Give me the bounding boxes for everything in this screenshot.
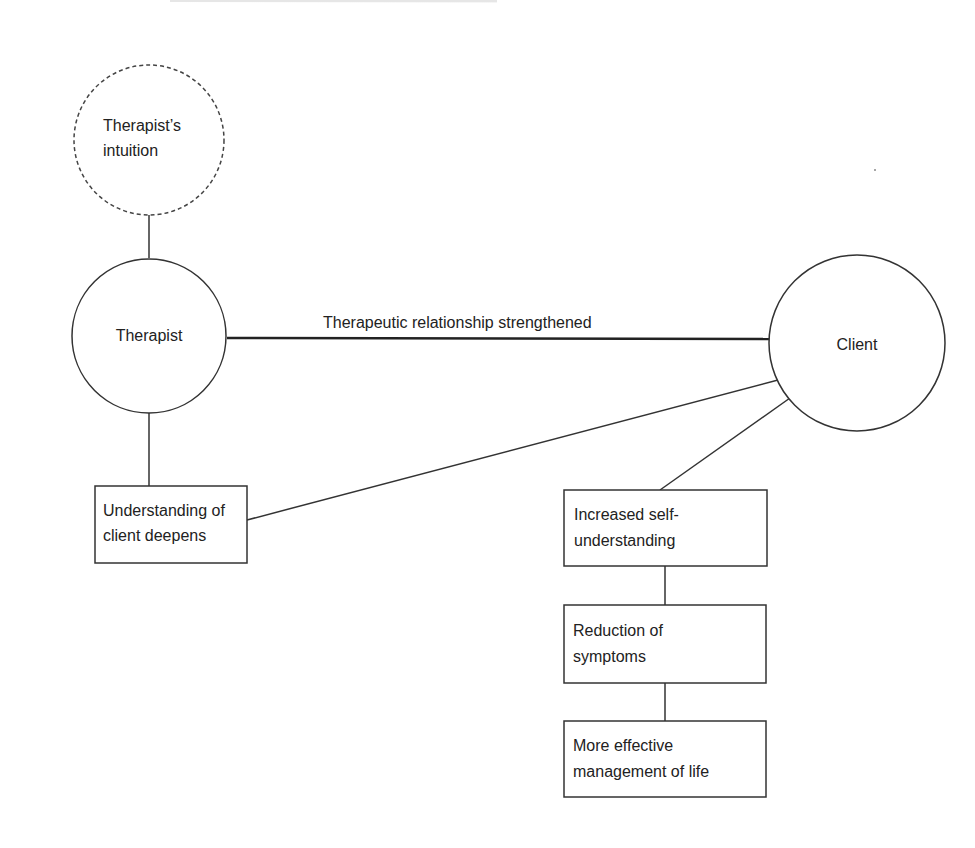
- node-therapist: Therapist: [72, 259, 226, 413]
- node-label-line-1: Reduction of: [573, 622, 663, 639]
- node-increased-self-understanding: Increased self- understanding: [564, 490, 767, 566]
- node-label-line-1: Therapist’s: [103, 117, 181, 134]
- box-shape: [95, 486, 247, 563]
- node-label-line-2: symptoms: [573, 648, 646, 665]
- node-reduction-of-symptoms: Reduction of symptoms: [564, 605, 766, 683]
- box-shape: [564, 721, 766, 797]
- box-shape: [564, 605, 766, 683]
- edge-label-relationship: Therapeutic relationship strengthened: [323, 314, 592, 331]
- dashed-circle-shape: [74, 65, 224, 215]
- node-label-line-2: understanding: [574, 532, 675, 549]
- therapy-process-diagram: Therapeutic relationship strengthened Th…: [0, 0, 975, 848]
- edge-client-self-understanding: [660, 398, 790, 490]
- stray-dot-artifact: [874, 169, 876, 171]
- node-label: Therapist: [116, 327, 183, 344]
- node-therapist-intuition: Therapist’s intuition: [74, 65, 224, 215]
- node-label-line-2: intuition: [103, 142, 158, 159]
- node-label-line-2: management of life: [573, 763, 709, 780]
- node-understanding-deepens: Understanding of client deepens: [95, 486, 247, 563]
- node-client: Client: [769, 255, 945, 431]
- node-management-of-life: More effective management of life: [564, 721, 766, 797]
- box-shape: [564, 490, 767, 566]
- node-label: Client: [837, 336, 878, 353]
- node-label-line-1: Understanding of: [103, 502, 225, 519]
- edge-therapeutic-relationship: [227, 338, 769, 339]
- node-label-line-1: Increased self-: [574, 506, 679, 523]
- node-label-line-1: More effective: [573, 737, 673, 754]
- node-label-line-2: client deepens: [103, 527, 206, 544]
